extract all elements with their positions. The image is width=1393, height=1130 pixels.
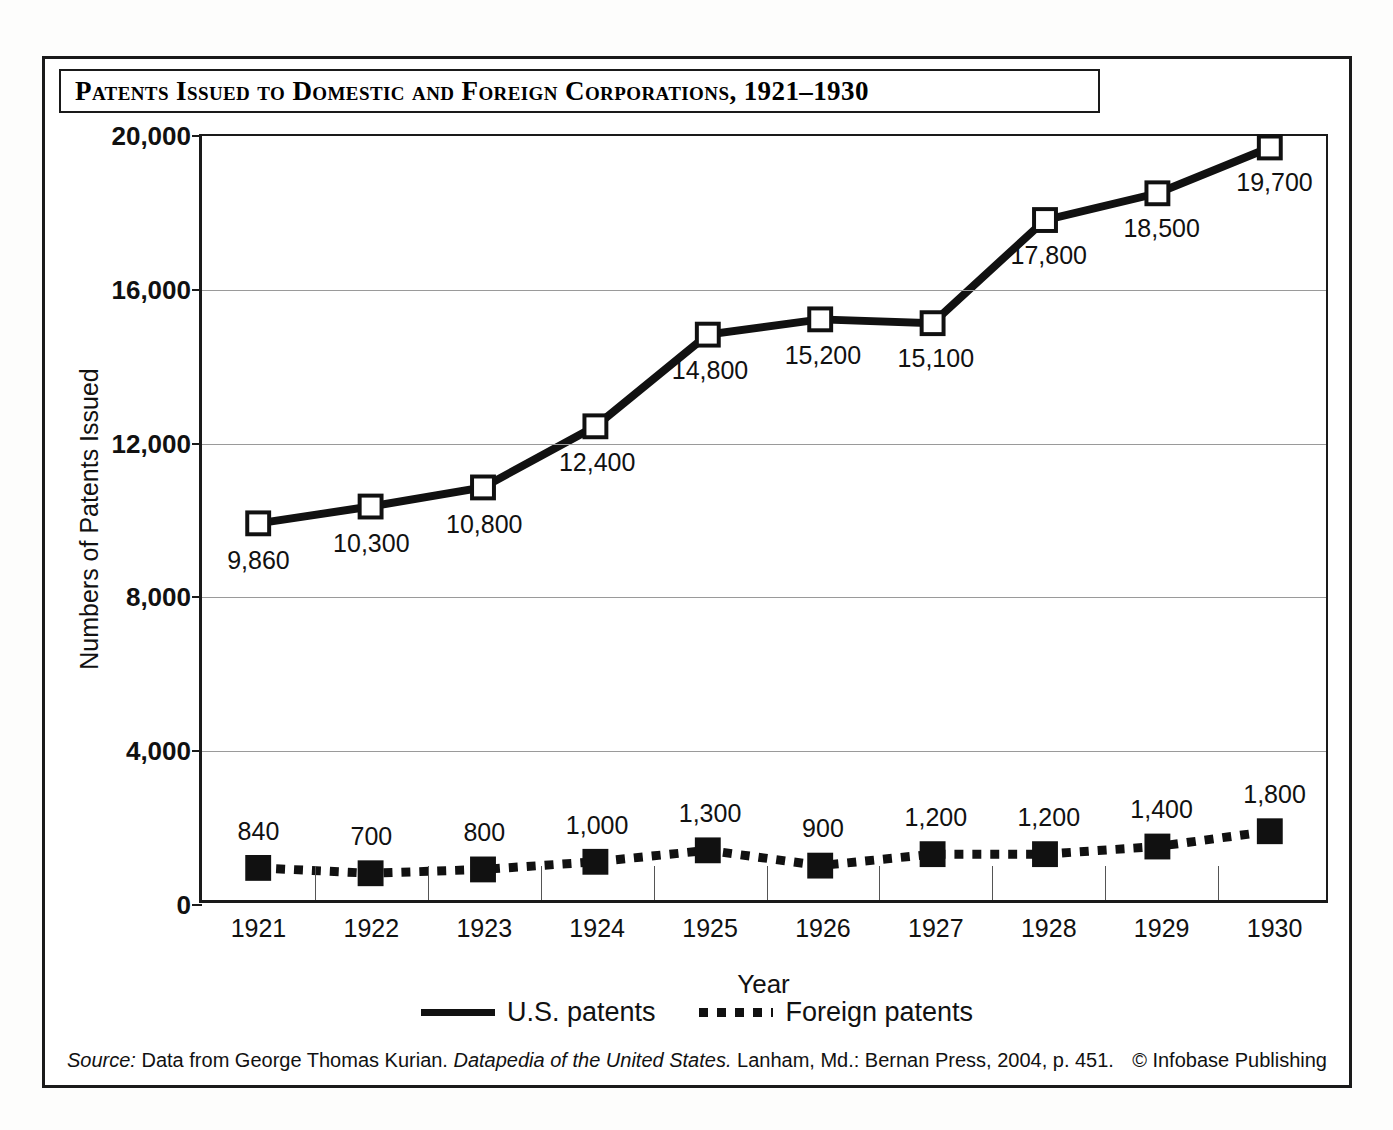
legend-label-foreign-patents: Foreign patents xyxy=(785,997,973,1028)
data-point-marker xyxy=(472,477,494,499)
data-point-marker xyxy=(807,853,833,879)
y-axis-tick xyxy=(192,443,202,445)
data-point-label: 1,000 xyxy=(566,811,629,840)
data-point-label: 840 xyxy=(238,817,280,846)
data-point-label: 10,800 xyxy=(446,510,522,539)
data-point-label: 9,860 xyxy=(227,546,290,575)
data-point-marker xyxy=(245,855,271,881)
data-point-label: 14,800 xyxy=(672,356,748,385)
data-point-label: 800 xyxy=(463,818,505,847)
y-axis-tick xyxy=(192,750,202,752)
data-point-label: 1,400 xyxy=(1130,795,1193,824)
data-point-marker xyxy=(358,860,384,886)
data-point-marker xyxy=(247,512,269,534)
x-axis-tick xyxy=(992,866,993,900)
x-axis-tick xyxy=(654,866,655,900)
chart-footer: Source: Data from George Thomas Kurian. … xyxy=(67,1049,1327,1072)
x-axis-tick xyxy=(541,866,542,900)
data-point-marker xyxy=(470,857,496,883)
x-axis-tick-label: 1921 xyxy=(231,914,287,943)
x-axis-tick-label: 1928 xyxy=(1021,914,1077,943)
data-point-marker xyxy=(922,312,944,334)
source-title: Datapedia of the United States. xyxy=(454,1049,732,1071)
data-point-marker xyxy=(1034,209,1056,231)
data-point-label: 700 xyxy=(350,822,392,851)
data-point-label: 1,300 xyxy=(679,799,742,828)
y-axis-tick xyxy=(192,596,202,598)
data-point-label: 15,100 xyxy=(898,344,974,373)
x-axis-tick-label: 1925 xyxy=(682,914,738,943)
data-point-label: 15,200 xyxy=(785,341,861,370)
legend-item-foreign-patents[interactable]: Foreign patents xyxy=(699,997,973,1028)
x-axis-tick xyxy=(879,866,880,900)
data-point-label: 1,200 xyxy=(905,803,968,832)
gridline xyxy=(202,444,1326,445)
data-point-label: 19,700 xyxy=(1236,168,1312,197)
data-point-marker xyxy=(1146,182,1168,204)
y-axis-tick xyxy=(192,135,202,137)
y-axis-tick-label: 20,000 xyxy=(111,121,191,152)
x-axis-tick xyxy=(1218,866,1219,900)
dotted-line-icon xyxy=(699,1008,773,1017)
publisher-credit: © Infobase Publishing xyxy=(1132,1049,1327,1072)
y-axis-tick-label: 12,000 xyxy=(111,428,191,459)
y-axis-title: Numbers of Patents Issued xyxy=(75,368,104,670)
source-text-2: Lanham, Md.: Bernan Press, 2004, p. 451. xyxy=(731,1049,1113,1071)
y-axis-tick-label: 0 xyxy=(177,890,191,921)
series-svg xyxy=(202,136,1326,900)
source-prefix: Source: xyxy=(67,1049,136,1071)
x-axis-tick xyxy=(315,866,316,900)
source-text-1: Data from George Thomas Kurian. xyxy=(136,1049,454,1071)
data-point-marker xyxy=(697,324,719,346)
plot-area: 04,0008,00012,00016,00020,00019211922192… xyxy=(199,134,1328,903)
solid-line-icon xyxy=(421,1009,495,1016)
x-axis-title: Year xyxy=(199,969,1328,1000)
x-axis-tick-label: 1929 xyxy=(1134,914,1190,943)
y-axis-tick-label: 4,000 xyxy=(126,736,191,767)
y-axis-tick xyxy=(192,289,202,291)
gridline xyxy=(202,290,1326,291)
data-point-marker xyxy=(1144,834,1170,860)
y-axis-tick-label: 8,000 xyxy=(126,582,191,613)
source-note: Source: Data from George Thomas Kurian. … xyxy=(67,1049,1114,1072)
data-point-label: 900 xyxy=(802,814,844,843)
data-point-marker xyxy=(584,415,606,437)
data-point-label: 1,200 xyxy=(1017,803,1080,832)
data-point-marker xyxy=(360,496,382,518)
series-line-us-patents xyxy=(258,147,1270,523)
plot-wrapper: Numbers of Patents Issued Year 04,0008,0… xyxy=(45,59,1349,1085)
data-point-marker xyxy=(695,837,721,863)
x-axis-tick-label: 1923 xyxy=(456,914,512,943)
x-axis-tick xyxy=(767,866,768,900)
x-axis-tick-label: 1927 xyxy=(908,914,964,943)
data-point-label: 18,500 xyxy=(1123,214,1199,243)
data-point-label: 17,800 xyxy=(1011,241,1087,270)
x-axis-tick xyxy=(428,866,429,900)
data-point-marker xyxy=(1257,818,1283,844)
legend-label-us-patents: U.S. patents xyxy=(507,997,656,1028)
series-line-foreign-patents xyxy=(258,831,1270,873)
x-axis-tick-label: 1922 xyxy=(344,914,400,943)
data-point-marker xyxy=(1259,137,1281,159)
x-axis-tick-label: 1926 xyxy=(795,914,851,943)
data-point-label: 1,800 xyxy=(1243,780,1306,809)
chart-figure: Patents Issued to Domestic and Foreign C… xyxy=(42,56,1352,1088)
data-point-marker xyxy=(920,841,946,867)
data-point-marker xyxy=(1032,841,1058,867)
data-point-label: 12,400 xyxy=(559,448,635,477)
data-point-marker xyxy=(582,849,608,875)
x-axis-tick-label: 1930 xyxy=(1247,914,1303,943)
y-axis-tick-label: 16,000 xyxy=(111,274,191,305)
x-axis-tick xyxy=(1105,866,1106,900)
data-point-marker xyxy=(809,308,831,330)
gridline xyxy=(202,597,1326,598)
legend-item-us-patents[interactable]: U.S. patents xyxy=(421,997,656,1028)
x-axis-tick-label: 1924 xyxy=(569,914,625,943)
gridline xyxy=(202,751,1326,752)
data-point-label: 10,300 xyxy=(333,529,409,558)
y-axis-tick xyxy=(192,904,202,906)
chart-legend: U.S. patents Foreign patents xyxy=(45,997,1349,1028)
